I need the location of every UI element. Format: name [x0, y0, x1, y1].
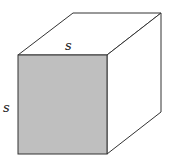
cube-front-face — [18, 55, 107, 154]
left-edge-label: s — [3, 100, 10, 115]
top-edge-label: s — [65, 38, 72, 53]
cube-diagram: s s — [0, 0, 174, 165]
